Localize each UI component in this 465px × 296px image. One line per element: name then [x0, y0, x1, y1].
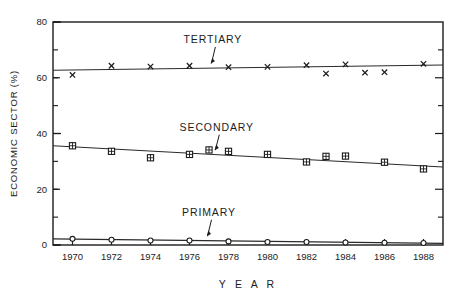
y-tick-label-40: 40 [36, 128, 47, 139]
series-secondary [53, 143, 443, 172]
marker-primary-1982 [304, 239, 309, 244]
marker-primary-1972 [109, 237, 114, 242]
marker-tertiary-1985 [362, 70, 367, 75]
marker-secondary-1986 [381, 159, 387, 165]
y-tick-label-60: 60 [36, 72, 47, 83]
y-axis-title: ECONOMIC SECTOR (%) [8, 70, 19, 197]
series-tertiary [53, 61, 443, 78]
marker-primary-1980 [265, 239, 270, 244]
y-tick-label-80: 80 [36, 16, 47, 27]
plot-border [53, 22, 443, 245]
x-tick-label-1978: 1978 [218, 251, 239, 262]
y-tick-label-20: 20 [36, 184, 47, 195]
x-tick-label-1986: 1986 [374, 251, 395, 262]
marker-secondary-1976 [186, 151, 192, 157]
pointer-head-tertiary [211, 58, 215, 64]
pointer-head-primary [207, 231, 211, 237]
x-tick-label-1980: 1980 [257, 251, 278, 262]
series-label-secondary: SECONDARY [180, 121, 254, 133]
marker-primary-1970 [70, 236, 75, 241]
x-tick-label-1976: 1976 [179, 251, 200, 262]
marker-secondary-1980 [264, 151, 270, 157]
y-tick-group: 020406080 [36, 16, 443, 250]
marker-secondary-1983 [323, 153, 329, 159]
marker-primary-1984 [343, 240, 348, 245]
marker-tertiary-1986 [382, 69, 387, 74]
marker-primary-1978 [226, 239, 231, 244]
y-axis [53, 22, 443, 245]
marker-tertiary-1983 [323, 71, 328, 76]
marker-primary-1974 [148, 238, 153, 243]
x-axis-title: Y E A R [219, 278, 277, 290]
marker-tertiary-1976 [187, 63, 192, 68]
x-tick-group: 1970197219741976197819801982198419861988 [62, 22, 434, 262]
marker-secondary-1970 [69, 143, 75, 149]
x-tick-label-1984: 1984 [335, 251, 356, 262]
x-tick-label-1982: 1982 [296, 251, 317, 262]
series-group [53, 61, 443, 245]
marker-secondary-1974 [147, 155, 153, 161]
annotation-group: TERTIARYSECONDARYPRIMARY [180, 33, 254, 236]
marker-secondary-1972 [108, 148, 114, 154]
series-label-tertiary: TERTIARY [184, 33, 243, 45]
x-tick-label-1972: 1972 [101, 251, 122, 262]
marker-primary-1976 [187, 238, 192, 243]
plot-frame [53, 22, 443, 245]
marker-primary-1988 [421, 241, 426, 246]
marker-primary-1986 [382, 240, 387, 245]
economic-sector-line-chart: 020406080 197019721974197619781980198219… [0, 0, 465, 296]
x-tick-label-1988: 1988 [413, 251, 434, 262]
marker-secondary-1984 [342, 153, 348, 159]
marker-secondary-1988 [420, 166, 426, 172]
marker-secondary-1982 [303, 159, 309, 165]
marker-tertiary-1978 [226, 64, 231, 69]
x-tick-label-1974: 1974 [140, 251, 161, 262]
chart-figure: 020406080 197019721974197619781980198219… [0, 0, 465, 296]
marker-secondary-1977 [206, 147, 212, 153]
marker-secondary-1978 [225, 148, 231, 154]
pointer-head-secondary [215, 145, 219, 151]
series-label-primary: PRIMARY [182, 206, 236, 218]
y-tick-label-0: 0 [42, 239, 47, 250]
marker-tertiary-1972 [109, 63, 114, 68]
x-tick-label-1970: 1970 [62, 251, 83, 262]
marker-tertiary-1970 [70, 72, 75, 77]
